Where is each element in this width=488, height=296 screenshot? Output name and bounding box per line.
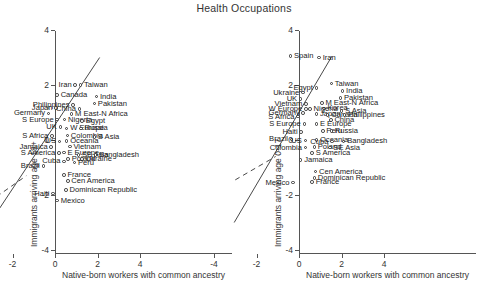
scatter-point xyxy=(304,107,308,111)
y-axis-label: Immigrants arriving age 0-17 xyxy=(273,139,283,247)
scatter-point xyxy=(73,83,77,87)
scatter-point xyxy=(289,54,293,58)
scatter-point xyxy=(73,161,77,165)
x-tick-label: 2 xyxy=(332,259,352,269)
scatter-point xyxy=(317,56,321,60)
scatter-point-label: Peru xyxy=(78,159,94,167)
x-tick xyxy=(13,254,14,258)
scatter-point xyxy=(310,180,314,184)
scatter-point xyxy=(299,130,303,134)
scatter-point xyxy=(62,160,66,164)
scatter-point xyxy=(315,122,319,126)
y-tick-label: 4 xyxy=(277,25,293,35)
scatter-point-label: Jamaica xyxy=(304,156,332,164)
scatter-point-label: Mexico xyxy=(61,197,85,205)
scatter-point-label: Spain xyxy=(294,52,313,60)
x-tick xyxy=(98,254,99,258)
x-tick-label: 4 xyxy=(130,259,150,269)
panel-age-18-plus: 420-2-4-4-2024Native-born workers with c… xyxy=(0,0,244,296)
scatter-point xyxy=(308,107,312,111)
scatter-point xyxy=(299,158,303,162)
y-tick-label: 2 xyxy=(33,80,49,90)
scatter-point xyxy=(303,122,307,126)
scatter-point-label: Cen America xyxy=(71,177,114,185)
x-tick-label: 0 xyxy=(289,259,309,269)
scatter-point-label: France xyxy=(316,178,340,186)
x-tick xyxy=(342,254,343,258)
scatter-point xyxy=(304,146,308,150)
scatter-point-label: Colombia xyxy=(270,144,302,152)
scatter-point xyxy=(79,127,83,131)
y-tick xyxy=(51,195,55,196)
scatter-point xyxy=(301,111,305,115)
x-axis-line xyxy=(299,253,476,254)
scatter-point xyxy=(55,118,59,122)
scatter-point xyxy=(55,93,59,97)
scatter-point xyxy=(65,127,69,131)
scatter-point xyxy=(315,112,319,116)
scatter-point xyxy=(65,139,69,143)
scatter-point xyxy=(95,95,99,99)
x-tick-label: -4 xyxy=(204,259,224,269)
y-tick xyxy=(51,30,55,31)
x-tick xyxy=(384,254,385,258)
scatter-point xyxy=(51,192,55,196)
scatter-point xyxy=(57,151,61,155)
scatter-point-label: Iran xyxy=(59,81,72,89)
scatter-point-label: Russia xyxy=(335,127,358,135)
scatter-point xyxy=(330,129,334,133)
y-tick xyxy=(295,250,299,251)
scatter-point xyxy=(304,102,308,106)
figure-health-occupations: Health Occupations 420-2-4-4-2024Native-… xyxy=(0,0,488,296)
scatter-point-label: Brazil xyxy=(21,162,40,170)
y-tick xyxy=(295,30,299,31)
scatter-point xyxy=(64,188,68,192)
scatter-point-label: UK xyxy=(46,123,57,131)
x-axis-label: Native-born workers with common ancestry xyxy=(40,270,247,280)
scatter-point xyxy=(62,173,66,177)
y-tick-label: 4 xyxy=(33,25,49,35)
scatter-point-label: China xyxy=(56,105,76,113)
scatter-point-label: Haiti xyxy=(34,190,49,198)
scatter-point xyxy=(66,157,70,161)
scatter-point-label: S Africa xyxy=(22,132,48,140)
scatter-point xyxy=(66,179,70,183)
x-axis-line xyxy=(55,253,232,254)
x-tick xyxy=(140,254,141,258)
x-tick xyxy=(214,254,215,258)
x-tick-label: 0 xyxy=(45,259,65,269)
scatter-point xyxy=(93,102,97,106)
scatter-point-label: Mexico xyxy=(265,179,289,187)
x-tick xyxy=(257,254,258,258)
y-tick xyxy=(295,195,299,196)
scatter-point xyxy=(301,91,305,95)
y-tick xyxy=(51,250,55,251)
x-tick-label: 4 xyxy=(374,259,394,269)
scatter-point xyxy=(304,139,308,143)
x-tick xyxy=(299,254,300,258)
scatter-point xyxy=(63,118,67,122)
scatter-point xyxy=(58,140,62,144)
scatter-point xyxy=(42,164,46,168)
scatter-point xyxy=(330,82,334,86)
scatter-point xyxy=(62,151,66,155)
scatter-point xyxy=(79,83,83,87)
fit-line-dashed xyxy=(0,176,26,202)
scatter-point xyxy=(66,134,70,138)
scatter-point xyxy=(341,89,345,93)
scatter-point xyxy=(315,86,319,90)
scatter-point xyxy=(291,181,295,185)
scatter-point xyxy=(59,125,63,129)
scatter-point-label: Canada xyxy=(61,91,88,99)
scatter-point-label: Iran xyxy=(323,54,336,62)
x-tick-label: -2 xyxy=(247,259,267,269)
scatter-point-label: Cuba xyxy=(42,158,60,166)
scatter-point xyxy=(80,119,84,123)
scatter-point-label: S Asia xyxy=(98,133,120,141)
scatter-point-label: Dominican Republic xyxy=(70,186,138,194)
x-tick-label: -2 xyxy=(3,259,23,269)
x-tick xyxy=(55,254,56,258)
y-tick xyxy=(51,85,55,86)
scatter-point-label: Taiwan xyxy=(84,81,108,89)
scatter-point xyxy=(321,129,325,133)
